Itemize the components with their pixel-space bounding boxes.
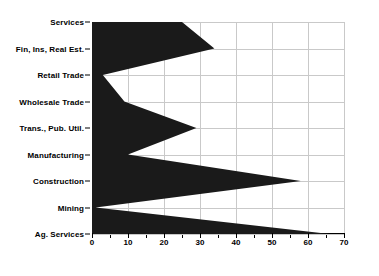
y-axis-tick-label: Wholesale Trade [19,97,84,106]
x-axis-tick-label: 70 [340,238,349,247]
y-axis-tick-label: Services [50,18,84,27]
y-axis-tick-mark [85,154,90,155]
y-axis-tick-mark [85,181,90,182]
y-axis-tick-mark [85,48,90,49]
x-axis-tick-label: 40 [232,238,241,247]
x-axis-tick-label: 20 [160,238,169,247]
x-axis-minor-tick-mark [254,235,255,238]
y-axis-tick-mark [85,75,90,76]
y-axis-tick-label: Mining [58,203,84,212]
x-axis-tick-label: 50 [268,238,277,247]
x-axis-tick-mark [92,233,93,238]
y-axis-tick-mark [85,128,90,129]
y-axis-tick-label: Ag. Services [35,230,84,239]
x-axis-minor-tick-mark [110,235,111,238]
x-axis-tick-label: 60 [304,238,313,247]
x-axis-minor-tick-mark [326,235,327,238]
x-axis-tick-mark [236,233,237,238]
x-axis-minor-tick-mark [182,235,183,238]
y-axis-tick-label: Manufacturing [28,150,84,159]
x-axis-labels: 010203040506070 [92,238,344,258]
x-axis-tick-label: 10 [124,238,133,247]
x-axis-tick-label: 0 [90,238,94,247]
area-series-shape [92,22,344,234]
plot-area [92,22,344,234]
x-axis-tick-mark [200,233,201,238]
x-axis-tick-mark [128,233,129,238]
x-axis-tick-label: 30 [196,238,205,247]
chart-container: ServicesFin, Ins, Real Est.Retail TradeW… [0,0,379,276]
x-axis-minor-tick-mark [218,235,219,238]
x-axis-tick-mark [272,233,273,238]
y-axis-tick-label: Trans., Pub. Util. [20,124,84,133]
gridline-vertical [344,22,345,234]
y-axis-tick-label: Retail Trade [37,71,84,80]
x-axis-tick-mark [308,233,309,238]
y-axis-labels: ServicesFin, Ins, Real Est.Retail TradeW… [0,22,90,234]
x-axis-minor-tick-mark [290,235,291,238]
x-axis-tick-mark [164,233,165,238]
x-axis-minor-tick-mark [146,235,147,238]
y-axis-tick-mark [85,234,90,235]
y-axis-tick-label: Construction [33,177,84,186]
y-axis-tick-label: Fin, Ins, Real Est. [16,44,84,53]
y-axis-tick-mark [85,101,90,102]
y-axis-tick-mark [85,207,90,208]
x-axis-tick-mark [344,233,345,238]
y-axis-tick-mark [85,22,90,23]
